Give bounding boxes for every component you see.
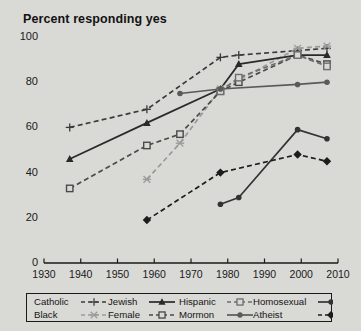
x-axis-tick-label: 1960 xyxy=(137,268,171,280)
line-chart-svg xyxy=(0,0,361,331)
x-axis-tick-label: 2010 xyxy=(321,268,355,280)
x-axis-tick-label: 1930 xyxy=(27,268,61,280)
legend-markers-svg xyxy=(27,294,333,323)
x-axis-tick-label: 1990 xyxy=(248,268,282,280)
y-axis-tick-label: 80 xyxy=(12,75,38,87)
x-axis-tick-label: 1940 xyxy=(64,268,98,280)
y-axis-tick-label: 40 xyxy=(12,166,38,178)
x-axis-tick-label: 1950 xyxy=(101,268,135,280)
plot-area: 1008060402001930194019501960197019801990… xyxy=(0,0,361,331)
chart-legend: Catholic Jewish Hispanic Homosexual Blac… xyxy=(26,293,332,322)
x-axis-tick-label: 1970 xyxy=(174,268,208,280)
x-axis-tick-label: 2000 xyxy=(284,268,318,280)
chart-figure: Percent responding yes 10080604020019301… xyxy=(0,0,361,331)
y-axis-tick-label: 100 xyxy=(12,30,38,42)
y-axis-tick-label: 20 xyxy=(12,211,38,223)
y-axis-tick-label: 0 xyxy=(12,256,38,268)
y-axis-tick-label: 60 xyxy=(12,120,38,132)
x-axis-tick-label: 1980 xyxy=(211,268,245,280)
